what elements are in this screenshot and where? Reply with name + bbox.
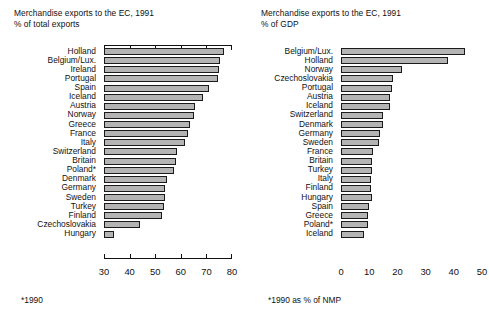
bar xyxy=(104,103,195,110)
bar xyxy=(104,185,165,192)
footnote-left: *1990 xyxy=(21,295,43,305)
bar xyxy=(104,176,167,183)
bar xyxy=(341,167,372,174)
x-axis-tick-label: 60 xyxy=(176,266,186,277)
bar xyxy=(104,75,218,82)
bar xyxy=(341,75,393,82)
bar xyxy=(341,203,369,210)
axis-top-left xyxy=(104,45,232,46)
bar xyxy=(104,66,219,73)
bar xyxy=(341,148,373,155)
x-axis-tick-label: 0 xyxy=(338,266,343,277)
bar xyxy=(341,221,368,228)
bar xyxy=(341,194,372,201)
bar xyxy=(341,158,372,165)
bar xyxy=(104,148,177,155)
chart-subtitle-right: % of GDP xyxy=(261,19,401,30)
axis-tick xyxy=(231,254,232,259)
bar xyxy=(341,212,368,219)
x-axis-tick-label: 50 xyxy=(150,266,160,277)
bar xyxy=(104,167,174,174)
axis-tick xyxy=(155,254,156,259)
bar xyxy=(104,130,188,137)
chart-subtitle-left: % of total exports xyxy=(14,19,154,30)
x-axis-tick-label: 80 xyxy=(227,266,237,277)
bar xyxy=(104,194,165,201)
bar xyxy=(104,57,220,64)
chart-title-right: Merchandise exports to the EC, 1991 xyxy=(261,8,401,19)
bar xyxy=(341,48,465,55)
bar xyxy=(341,66,402,73)
chart-panel-total-exports: Merchandise exports to the EC, 1991 % of… xyxy=(0,0,245,325)
bar xyxy=(104,203,164,210)
bar xyxy=(341,112,383,119)
bar xyxy=(104,139,185,146)
bar xyxy=(104,158,176,165)
x-axis-tick-labels-right: 01020304050 xyxy=(341,266,482,280)
footnote-right: *1990 as % of NMP xyxy=(268,295,341,305)
bar xyxy=(104,121,190,128)
x-axis-tick-label: 30 xyxy=(420,266,430,277)
x-axis-tick-label: 70 xyxy=(201,266,211,277)
x-axis-tick-label: 40 xyxy=(449,266,459,277)
x-axis-tick-label: 30 xyxy=(99,266,109,277)
bar xyxy=(104,221,140,228)
bar-category-label: Hungary xyxy=(0,229,100,239)
bar xyxy=(104,94,203,101)
x-axis-tick-label: 40 xyxy=(124,266,134,277)
x-axis-tick-label: 50 xyxy=(477,266,487,277)
bar-rows-left: HollandBelgium/Lux.IrelandPortugalSpainI… xyxy=(0,47,232,239)
bar-row: Hungary xyxy=(0,230,232,239)
chart-title-left: Merchandise exports to the EC, 1991 xyxy=(14,8,154,19)
bar-category-label: Iceland xyxy=(245,229,337,239)
bar xyxy=(341,94,390,101)
bar-rows-right: Belgium/Lux.HollandNorwayCzechoslovakiaP… xyxy=(245,47,482,239)
bar xyxy=(104,85,209,92)
bar xyxy=(341,176,371,183)
bar xyxy=(104,112,194,119)
axis-tick xyxy=(104,254,105,259)
bar xyxy=(104,231,114,238)
bar xyxy=(341,57,448,64)
bar xyxy=(341,130,380,137)
axis-tick xyxy=(130,254,131,259)
bar xyxy=(104,212,162,219)
bar xyxy=(341,121,383,128)
x-axis-tick-label: 10 xyxy=(364,266,374,277)
bar xyxy=(341,85,392,92)
axis-tick xyxy=(206,254,207,259)
chart-title-block-right: Merchandise exports to the EC, 1991 % of… xyxy=(261,8,401,29)
x-axis-tick-label: 20 xyxy=(392,266,402,277)
chart-title-block-left: Merchandise exports to the EC, 1991 % of… xyxy=(14,8,154,29)
bar xyxy=(341,185,371,192)
bar xyxy=(341,231,364,238)
bar xyxy=(341,103,390,110)
axis-bottom-left xyxy=(104,258,232,259)
axis-tick xyxy=(181,254,182,259)
bar xyxy=(104,48,224,55)
x-axis-tick-labels-left: 304050607080 xyxy=(104,266,232,280)
bar-row: Iceland xyxy=(245,230,482,239)
bar xyxy=(341,139,379,146)
